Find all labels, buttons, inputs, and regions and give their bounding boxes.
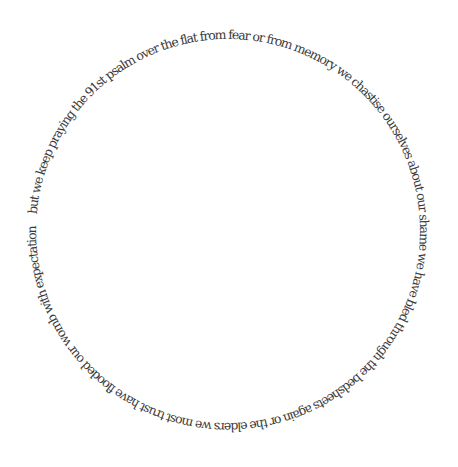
poem-text-path: but we keep praying the 91st psalm over … (24, 27, 432, 435)
circular-poem-text: but we keep praying the 91st psalm over … (24, 27, 432, 435)
circular-poem-canvas: but we keep praying the 91st psalm over … (0, 0, 458, 467)
